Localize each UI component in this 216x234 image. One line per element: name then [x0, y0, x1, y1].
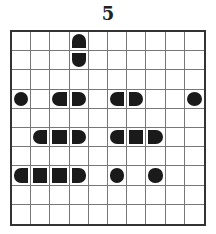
grid-cell[interactable] [146, 109, 165, 128]
grid-cell[interactable] [166, 51, 185, 70]
grid-cell[interactable] [50, 32, 69, 51]
grid-cell[interactable] [127, 147, 146, 166]
grid-cell[interactable] [89, 205, 108, 224]
grid-cell[interactable] [166, 90, 185, 109]
grid-cell[interactable] [31, 205, 50, 224]
grid-cell[interactable] [185, 32, 204, 51]
grid-cell[interactable] [50, 90, 69, 109]
grid-cell[interactable] [185, 70, 204, 89]
grid-cell[interactable] [12, 32, 31, 51]
grid-cell[interactable] [89, 51, 108, 70]
grid-cell[interactable] [108, 147, 127, 166]
grid-cell[interactable] [31, 109, 50, 128]
grid-cell[interactable] [166, 32, 185, 51]
grid-cell[interactable] [12, 166, 31, 185]
grid-cell[interactable] [166, 166, 185, 185]
grid-cell[interactable] [108, 51, 127, 70]
grid-cell[interactable] [127, 186, 146, 205]
grid-cell[interactable] [12, 51, 31, 70]
grid-cell[interactable] [108, 109, 127, 128]
grid-cell[interactable] [166, 128, 185, 147]
grid-cell[interactable] [146, 147, 165, 166]
grid-cell[interactable] [89, 109, 108, 128]
grid-cell[interactable] [89, 186, 108, 205]
grid-cell[interactable] [89, 90, 108, 109]
grid-cell[interactable] [50, 186, 69, 205]
grid-cell[interactable] [12, 147, 31, 166]
grid-cell[interactable] [127, 51, 146, 70]
grid-cell[interactable] [12, 205, 31, 224]
grid-cell[interactable] [127, 205, 146, 224]
grid-cell[interactable] [127, 70, 146, 89]
grid-cell[interactable] [89, 70, 108, 89]
grid-cell[interactable] [50, 128, 69, 147]
grid-cell[interactable] [31, 90, 50, 109]
grid-cell[interactable] [50, 109, 69, 128]
grid-cell[interactable] [146, 166, 165, 185]
grid-cell[interactable] [185, 109, 204, 128]
grid-cell[interactable] [166, 205, 185, 224]
grid-cell[interactable] [166, 147, 185, 166]
grid-cell[interactable] [166, 186, 185, 205]
grid-cell[interactable] [31, 128, 50, 147]
grid-cell[interactable] [89, 166, 108, 185]
grid-cell[interactable] [108, 32, 127, 51]
grid-cell[interactable] [12, 70, 31, 89]
grid-cell[interactable] [146, 186, 165, 205]
grid-cell[interactable] [146, 90, 165, 109]
grid-cell[interactable] [108, 166, 127, 185]
grid-cell[interactable] [70, 205, 89, 224]
grid-cell[interactable] [108, 128, 127, 147]
grid-cell[interactable] [70, 128, 89, 147]
grid-cell[interactable] [12, 128, 31, 147]
grid-cell[interactable] [50, 70, 69, 89]
grid-cell[interactable] [185, 128, 204, 147]
grid-cell[interactable] [108, 205, 127, 224]
grid-cell[interactable] [12, 90, 31, 109]
grid-cell[interactable] [31, 186, 50, 205]
grid-cell[interactable] [185, 90, 204, 109]
grid-cell[interactable] [70, 166, 89, 185]
grid-cell[interactable] [70, 90, 89, 109]
grid-cell[interactable] [127, 32, 146, 51]
grid-cell[interactable] [70, 51, 89, 70]
grid-cell[interactable] [108, 186, 127, 205]
grid-cell[interactable] [146, 70, 165, 89]
grid-cell[interactable] [50, 166, 69, 185]
grid-cell[interactable] [108, 70, 127, 89]
grid-cell[interactable] [31, 147, 50, 166]
grid-cell[interactable] [12, 186, 31, 205]
grid-cell[interactable] [70, 32, 89, 51]
grid-cell[interactable] [89, 128, 108, 147]
grid-cell[interactable] [146, 128, 165, 147]
grid-cell[interactable] [12, 109, 31, 128]
grid-cell[interactable] [50, 147, 69, 166]
grid-cell[interactable] [166, 70, 185, 89]
grid-cell[interactable] [146, 51, 165, 70]
grid-cell[interactable] [127, 128, 146, 147]
grid-cell[interactable] [31, 166, 50, 185]
grid-cell[interactable] [50, 205, 69, 224]
grid-cell[interactable] [70, 109, 89, 128]
grid-cell[interactable] [31, 51, 50, 70]
grid-cell[interactable] [185, 166, 204, 185]
grid-cell[interactable] [50, 51, 69, 70]
grid-cell[interactable] [89, 32, 108, 51]
grid-cell[interactable] [146, 205, 165, 224]
grid-cell[interactable] [70, 186, 89, 205]
grid-cell[interactable] [89, 147, 108, 166]
grid-cell[interactable] [185, 51, 204, 70]
grid-cell[interactable] [166, 109, 185, 128]
grid-cell[interactable] [108, 90, 127, 109]
grid-cell[interactable] [146, 32, 165, 51]
grid-cell[interactable] [127, 90, 146, 109]
grid-cell[interactable] [70, 70, 89, 89]
grid-cell[interactable] [31, 32, 50, 51]
grid-cell[interactable] [127, 166, 146, 185]
grid-cell[interactable] [31, 70, 50, 89]
grid-cell[interactable] [185, 147, 204, 166]
grid-cell[interactable] [185, 186, 204, 205]
grid-cell[interactable] [185, 205, 204, 224]
grid-cell[interactable] [127, 109, 146, 128]
grid-cell[interactable] [70, 147, 89, 166]
